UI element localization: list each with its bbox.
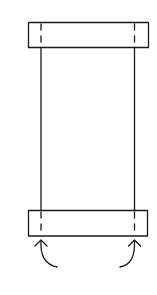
top-bar xyxy=(29,23,149,48)
right-fold-arrow-icon xyxy=(120,240,141,267)
left-fold-arrow-icon xyxy=(35,240,57,267)
fold-diagram xyxy=(0,0,157,295)
bottom-bar xyxy=(29,211,148,237)
